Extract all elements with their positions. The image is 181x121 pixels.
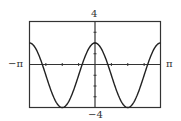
y-min-label: −4 [88, 110, 103, 120]
x-max-label: π [166, 59, 173, 69]
x-min-label: −π [8, 59, 23, 69]
y-max-label: 4 [91, 9, 97, 19]
